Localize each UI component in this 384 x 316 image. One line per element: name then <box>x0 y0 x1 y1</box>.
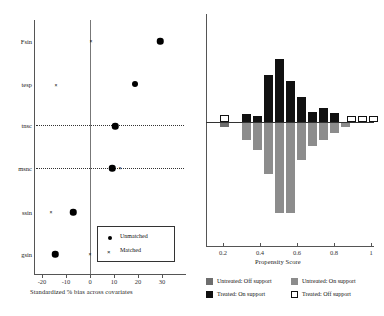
legend-label-matched: Matched <box>120 247 141 253</box>
figure-canvas: Fsin tesp tnsc msnc ssin gsin × × × × × … <box>0 0 384 316</box>
legend-label-unmatched: Unmatched <box>120 233 148 239</box>
legend-marker-matched: × <box>107 249 111 255</box>
x-ticklabel-5: 30 <box>159 278 166 285</box>
point-unmatched-ssin <box>70 209 77 216</box>
legend-label-untreated-on: Untreated: On support <box>302 278 356 284</box>
point-matched-tnsc: × <box>113 124 116 129</box>
variable-label-gsin: gsin <box>8 251 32 258</box>
x-ticklabel-0: -20 <box>38 278 47 285</box>
left-panel-left-spine <box>34 20 35 274</box>
legend-label-treated-off: Treated: Off support <box>302 291 351 297</box>
point-matched-gsin: × <box>89 252 92 257</box>
legend-label-treated-on: Treated: On support <box>217 291 265 297</box>
legend-label-untreated-off: Untreated: Off support <box>217 278 272 284</box>
point-matched-ssin: × <box>50 210 53 215</box>
x-ticklabel-2: 0 <box>88 278 91 285</box>
point-matched-tesp: × <box>55 83 58 88</box>
propensity-overlap-panel: 0.2 0.4 0.6 0.8 1 Propensity Score Untre… <box>192 0 384 316</box>
left-panel-x-axis <box>34 274 186 275</box>
legend-swatch-untreated-on <box>291 278 298 285</box>
left-panel-axis-title: Standardized % bias across covariates <box>30 288 133 295</box>
variable-label-ssin: ssin <box>8 209 32 216</box>
variable-label-Fsin: Fsin <box>8 38 32 45</box>
legend-marker-unmatched <box>108 236 112 240</box>
right-panel-legend: Untreated: Off support Untreated: On sup… <box>192 0 384 316</box>
point-matched-Fsin: × <box>90 39 93 44</box>
point-matched-msnc: × <box>119 166 122 171</box>
variable-label-msnc: msnc <box>8 165 32 172</box>
x-ticklabel-3: 10 <box>111 278 118 285</box>
legend-swatch-treated-on <box>206 291 213 298</box>
reference-line-tnsc <box>36 125 184 126</box>
x-ticklabel-4: 20 <box>135 278 142 285</box>
left-panel-legend: Unmatched × Matched <box>97 226 175 262</box>
zero-reference-line <box>90 20 91 274</box>
variable-label-tesp: tesp <box>8 81 32 88</box>
point-unmatched-tesp <box>132 81 138 87</box>
legend-swatch-untreated-off <box>206 278 213 285</box>
covariate-balance-panel: Fsin tesp tnsc msnc ssin gsin × × × × × … <box>0 0 192 316</box>
point-unmatched-msnc <box>109 165 116 172</box>
x-ticklabel-1: -10 <box>62 278 71 285</box>
point-unmatched-Fsin <box>157 38 164 45</box>
legend-swatch-treated-off <box>291 291 298 298</box>
point-unmatched-gsin <box>52 251 59 258</box>
variable-label-tnsc: tnsc <box>8 122 32 129</box>
